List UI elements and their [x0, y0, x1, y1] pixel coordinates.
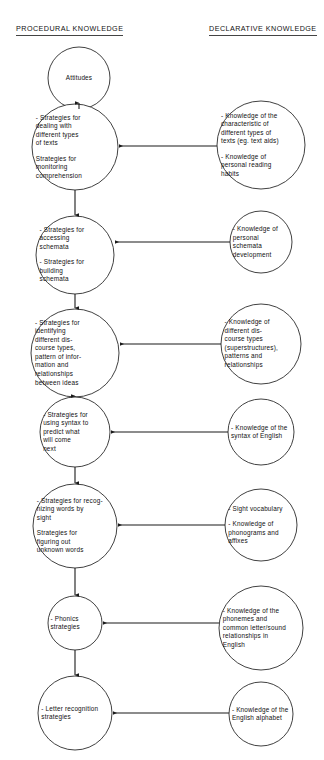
- node-label-knowledge-text-characteristics: - Knowledge of the characteristic of dif…: [221, 112, 301, 179]
- node-label-line: - Strategies for using syntax to predict…: [43, 411, 107, 454]
- node-label-line: - Phonics strategies: [50, 615, 99, 632]
- node-label-line: - Knowledge of phonograms and affixes: [228, 520, 294, 546]
- node-label-knowledge-vocabulary: - Sight vocabulary- Knowledge of phonogr…: [228, 505, 294, 546]
- node-label-strategies-syntax: - Strategies for using syntax to predict…: [43, 411, 107, 454]
- node-label-knowledge-schemata: - Knowledge of personal schemata develop…: [233, 225, 289, 259]
- node-label-line: - Knowledge of personal reading habits: [221, 153, 301, 179]
- node-label-line: - Strategies for building schemata: [40, 258, 111, 284]
- node-label-line: Attitudes: [51, 74, 107, 83]
- node-label-line: - Strategies for accessing schemata: [40, 226, 111, 252]
- node-label-line: - Strategies for dealing with different …: [36, 114, 114, 148]
- node-label-line: - Knowledge of different dis- course typ…: [225, 318, 298, 370]
- node-label-line: - Sight vocabulary: [228, 505, 294, 514]
- node-label-line: Strategies for figuring out unknown word…: [37, 529, 113, 555]
- node-label-attitudes: Attitudes: [51, 74, 107, 83]
- node-label-line: - Knowledge of the syntax of English: [231, 424, 291, 441]
- node-label-strategies-words: - Strategies for recog- nizing words by …: [37, 497, 113, 556]
- node-label-line: - Strategies for recog- nizing words by …: [37, 497, 113, 523]
- node-label-knowledge-phonemes: - Knowledge of the phonemes and common l…: [223, 607, 299, 650]
- node-label-line: - Knowledge of the characteristic of dif…: [221, 112, 301, 146]
- node-label-line: Strategies for monitoring comprehension: [36, 155, 114, 181]
- node-label-knowledge-alphabet: - Knowledge of the English alphabet: [232, 706, 290, 723]
- node-label-knowledge-syntax: - Knowledge of the syntax of English: [231, 424, 291, 441]
- node-label-strategies-schemata: - Strategies for accessing schemata- Str…: [40, 226, 111, 285]
- node-label-line: - Strategies for identifying different d…: [35, 319, 115, 388]
- node-label-line: - Knowledge of the phonemes and common l…: [223, 607, 299, 650]
- node-label-line: - Knowledge of the English alphabet: [232, 706, 290, 723]
- node-label-letter-recognition: - Letter recognition strategies: [41, 705, 108, 722]
- knowledge-flow-diagram: PROCEDURAL KNOWLEDGE DECLARATIVE KNOWLED…: [0, 0, 324, 760]
- node-label-line: - Knowledge of personal schemata develop…: [233, 225, 289, 259]
- node-label-knowledge-discourse: - Knowledge of different dis- course typ…: [225, 318, 298, 370]
- node-label-strategies-texts: - Strategies for dealing with different …: [36, 114, 114, 181]
- node-label-line: - Letter recognition strategies: [41, 705, 108, 722]
- node-label-strategies-discourse: - Strategies for identifying different d…: [35, 319, 115, 388]
- node-label-phonics: - Phonics strategies: [50, 615, 99, 632]
